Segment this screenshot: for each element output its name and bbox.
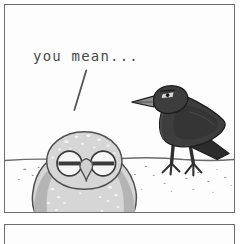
comic-panel-artwork — [5, 5, 234, 212]
owl-eye-left — [57, 151, 82, 176]
crow-brow — [161, 90, 175, 91]
next-panel-edge — [4, 224, 235, 244]
crow-pupil — [166, 93, 170, 97]
comic-panel-root: you mean... — [0, 0, 243, 244]
comic-panel-frame: you mean... — [4, 4, 235, 213]
owl-eye-right — [91, 151, 116, 176]
dialogue-text: you mean... — [33, 48, 139, 64]
